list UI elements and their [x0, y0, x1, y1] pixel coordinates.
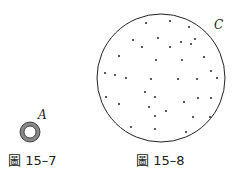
dot: [104, 72, 106, 74]
dot: [154, 115, 156, 117]
dot: [141, 46, 143, 48]
figure-stage: A C 圖 15–7 圖 15–8: [0, 0, 238, 179]
dot: [210, 97, 212, 99]
dot: [185, 131, 187, 133]
dot: [216, 77, 218, 79]
dot: [196, 78, 198, 80]
dot: [150, 78, 152, 80]
dot: [194, 38, 196, 40]
dot: [118, 55, 120, 57]
dot: [183, 101, 185, 103]
circle-c: [97, 14, 225, 142]
dot: [144, 91, 146, 93]
dot: [118, 103, 120, 105]
label-a: A: [38, 108, 47, 122]
dot: [125, 77, 127, 79]
dot: [197, 97, 199, 99]
dot: [148, 106, 150, 108]
dot: [130, 126, 132, 128]
dot: [145, 22, 147, 24]
dot: [165, 110, 167, 112]
dot: [154, 128, 156, 130]
dot: [132, 39, 134, 41]
label-c: C: [214, 18, 223, 32]
dot: [177, 78, 179, 80]
dot: [192, 116, 194, 118]
ring-a: [20, 122, 40, 142]
dot: [180, 41, 182, 43]
dots-group: [104, 20, 218, 133]
dot: [154, 96, 156, 98]
dot: [190, 43, 192, 45]
dot: [210, 70, 212, 72]
dot: [169, 46, 171, 48]
dot: [157, 37, 159, 39]
caption-15-7: 圖 15–7: [8, 150, 56, 169]
dot: [155, 59, 157, 61]
dot: [114, 74, 116, 76]
dot: [181, 59, 183, 61]
dot: [203, 56, 205, 58]
dot: [105, 96, 107, 98]
caption-15-8: 圖 15–8: [136, 150, 184, 169]
dot: [209, 116, 211, 118]
dot: [188, 26, 190, 28]
dot: [169, 20, 171, 22]
